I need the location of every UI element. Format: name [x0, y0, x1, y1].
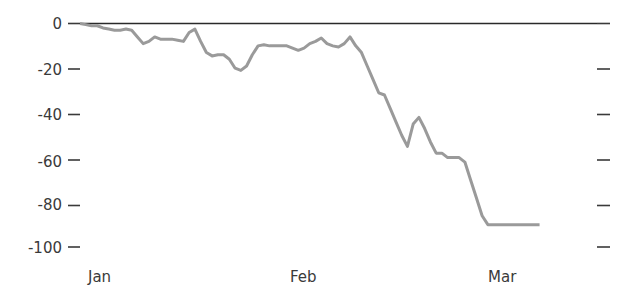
x-tick-label: Jan: [87, 268, 111, 286]
y-tick-label: -40: [38, 106, 63, 124]
y-axis-tickmarks-left: [68, 24, 80, 248]
chart-canvas: 0 -20 -40 -60 -80 -100: [0, 0, 625, 303]
y-tick-label: -60: [38, 153, 63, 171]
x-tick-label: Feb: [290, 268, 317, 286]
y-tick-label: -100: [28, 239, 62, 257]
x-axis-labels: Jan Feb Mar: [87, 268, 517, 286]
line-chart: 0 -20 -40 -60 -80 -100: [0, 0, 625, 303]
y-axis-tickmarks-right: [597, 24, 610, 248]
data-series-line: [80, 24, 540, 225]
x-tick-label: Mar: [488, 268, 517, 286]
y-tick-label: -20: [38, 61, 63, 79]
y-tick-label: -80: [38, 196, 63, 214]
y-axis-labels: 0 -20 -40 -60 -80 -100: [28, 15, 62, 257]
y-tick-label: 0: [52, 15, 62, 33]
